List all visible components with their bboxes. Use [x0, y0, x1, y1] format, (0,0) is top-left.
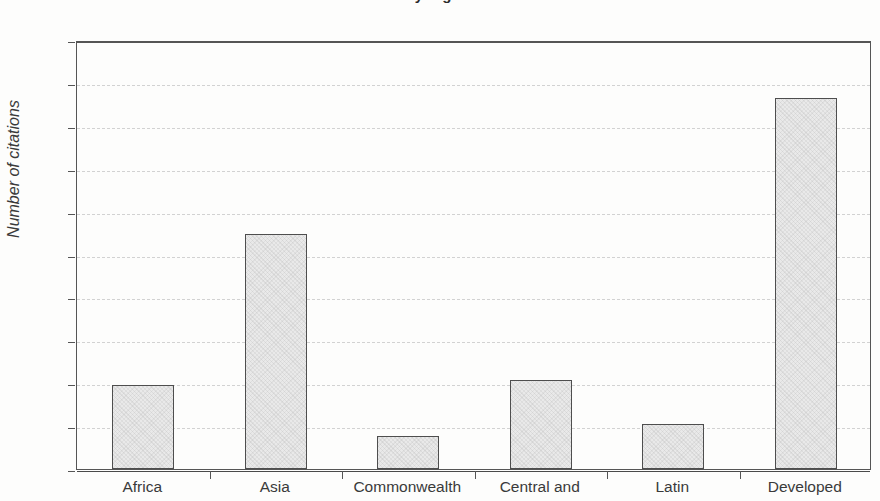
- gridline-0: [77, 471, 870, 472]
- y-axis-title: Number of citations: [5, 69, 27, 269]
- x-axis-label-latin: Latin: [655, 478, 689, 496]
- y-tick-mark-200: [68, 299, 75, 300]
- y-tick-mark-300: [68, 214, 75, 215]
- chart-title-cropped: by region: [0, 0, 880, 8]
- x-axis-label-asia: Asia: [260, 478, 290, 496]
- bar-commonwealth: [377, 436, 439, 469]
- y-tick-mark-500: [68, 42, 75, 43]
- bar-chart-figure: by region Number of citations 0501001502…: [0, 0, 880, 501]
- y-tick-mark-400: [68, 128, 75, 129]
- x-axis-label-africa: Africa: [122, 478, 162, 496]
- x-axis-label-developed: Developed: [768, 478, 842, 496]
- y-tick-mark-0: [68, 471, 75, 472]
- gridline-300: [77, 214, 870, 215]
- gridline-450: [77, 85, 870, 86]
- x-tick-mark-4: [607, 471, 608, 479]
- x-tick-mark-5: [740, 471, 741, 479]
- bar-africa: [112, 385, 174, 469]
- x-tick-mark-2: [342, 471, 343, 479]
- x-axis-label-commonwealth: Commonwealth: [353, 478, 461, 496]
- gridline-500: [77, 42, 870, 43]
- chart-title-text: by region: [405, 0, 474, 3]
- x-tick-mark-3: [475, 471, 476, 479]
- x-tick-mark-1: [210, 471, 211, 479]
- y-tick-mark-100: [68, 385, 75, 386]
- gridline-150: [77, 342, 870, 343]
- gridline-200: [77, 299, 870, 300]
- y-tick-mark-350: [68, 171, 75, 172]
- bar-latin: [642, 424, 704, 469]
- gridline-400: [77, 128, 870, 129]
- bar-developed: [775, 98, 837, 469]
- gridline-100: [77, 385, 870, 386]
- y-tick-mark-250: [68, 257, 75, 258]
- y-tick-mark-450: [68, 85, 75, 86]
- bar-central-and: [510, 380, 572, 469]
- y-tick-mark-150: [68, 342, 75, 343]
- plot-area: 050100150200250300350400450500: [76, 41, 871, 470]
- y-tick-mark-50: [68, 428, 75, 429]
- x-axis-label-central-and: Central and: [500, 478, 580, 496]
- gridline-250: [77, 257, 870, 258]
- bar-asia: [245, 234, 307, 469]
- gridline-50: [77, 428, 870, 429]
- gridline-350: [77, 171, 870, 172]
